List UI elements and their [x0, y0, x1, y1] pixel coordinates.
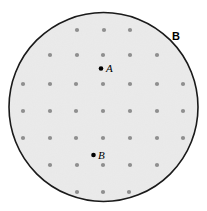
- lattice-point: [127, 190, 131, 194]
- lattice-point: [75, 28, 79, 32]
- marked-point-dot-B: [91, 153, 96, 158]
- lattice-point: [155, 109, 159, 113]
- lattice-point: [101, 53, 105, 57]
- lattice-point: [128, 136, 132, 140]
- lattice-point: [21, 109, 25, 113]
- lattice-point: [101, 163, 105, 167]
- lattice-point: [101, 109, 105, 113]
- point-label-B: B: [98, 150, 105, 161]
- lattice-point: [102, 28, 106, 32]
- lattice-point: [181, 136, 185, 140]
- lattice-point: [128, 28, 132, 32]
- geometric-diagram: B A B: [0, 0, 207, 211]
- lattice-point: [74, 109, 78, 113]
- lattice-point: [101, 82, 105, 86]
- lattice-point: [128, 53, 132, 57]
- lattice-point: [48, 136, 52, 140]
- lattice-point: [155, 53, 159, 57]
- lattice-point: [101, 136, 105, 140]
- region-label-B: B: [172, 31, 180, 42]
- lattice-point: [128, 109, 132, 113]
- lattice-point: [128, 163, 132, 167]
- lattice-point: [48, 82, 52, 86]
- lattice-point: [75, 190, 79, 194]
- lattice-point: [75, 163, 79, 167]
- lattice-point: [74, 82, 78, 86]
- lattice-point: [48, 163, 52, 167]
- point-label-A: A: [106, 63, 113, 74]
- lattice-point: [155, 163, 159, 167]
- lattice-point: [48, 53, 52, 57]
- lattice-point: [155, 136, 159, 140]
- lattice-point: [155, 82, 159, 86]
- lattice-point: [128, 82, 132, 86]
- lattice-point: [101, 190, 105, 194]
- lattice-point: [181, 82, 185, 86]
- lattice-point: [21, 82, 25, 86]
- lattice-point: [74, 136, 78, 140]
- marked-point-dot-A: [99, 66, 104, 71]
- lattice-point: [75, 53, 79, 57]
- lattice-point: [48, 109, 52, 113]
- lattice-point: [181, 109, 185, 113]
- lattice-point: [21, 136, 25, 140]
